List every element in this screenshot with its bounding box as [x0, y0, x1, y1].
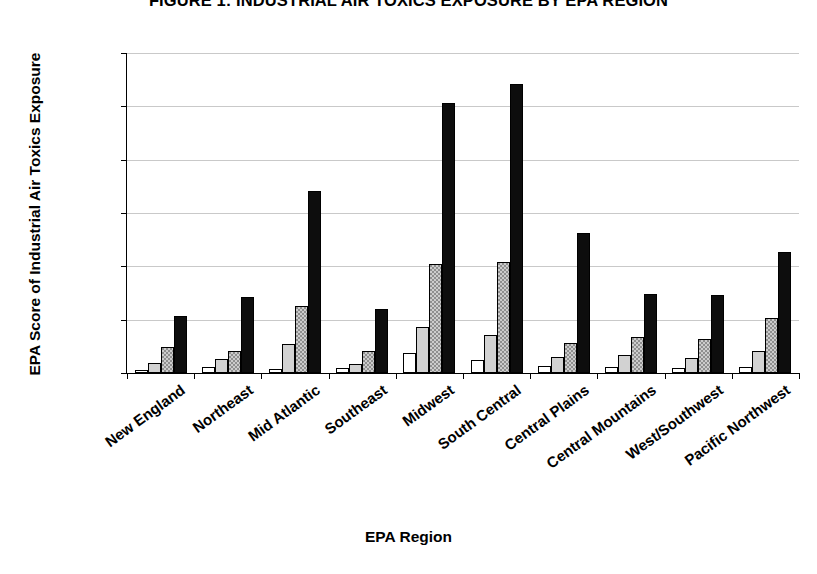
bar-group [127, 53, 194, 373]
chart-title: FIGURE 1: INDUSTRIAL AIR TOXICS EXPOSURE… [0, 0, 817, 10]
chart-figure: FIGURE 1: INDUSTRIAL AIR TOXICS EXPOSURE… [0, 0, 817, 574]
bar-group [463, 53, 530, 373]
bar-group [530, 53, 597, 373]
y-axis-title: EPA Score of Industrial Air Toxics Expos… [26, 19, 44, 409]
bars-layer [127, 53, 799, 373]
bar-group [665, 53, 732, 373]
bar [442, 103, 455, 373]
bar [161, 347, 174, 373]
bar-group [396, 53, 463, 373]
x-axis-category-labels: New EnglandNortheastMid AtlanticSoutheas… [126, 373, 798, 513]
x-axis-title: EPA Region [0, 528, 817, 546]
bar-group [329, 53, 396, 373]
bar [308, 191, 321, 373]
plot-area: 050001000015000200002500030000 [126, 53, 799, 374]
bar [174, 316, 187, 373]
bar [510, 84, 523, 373]
bar-group [597, 53, 664, 373]
bar-group [194, 53, 261, 373]
bar-group [261, 53, 328, 373]
bar [148, 363, 161, 373]
